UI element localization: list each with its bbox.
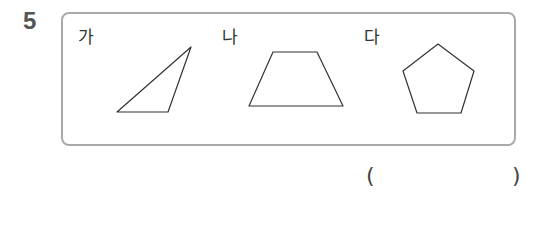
answer-close-paren: ) <box>512 163 521 188</box>
triangle-figure <box>117 47 191 112</box>
answer-open-paren: ( <box>366 163 375 188</box>
trapezoid-figure <box>249 52 343 106</box>
answer-field[interactable] <box>385 165 510 191</box>
pentagon-figure <box>403 44 474 113</box>
